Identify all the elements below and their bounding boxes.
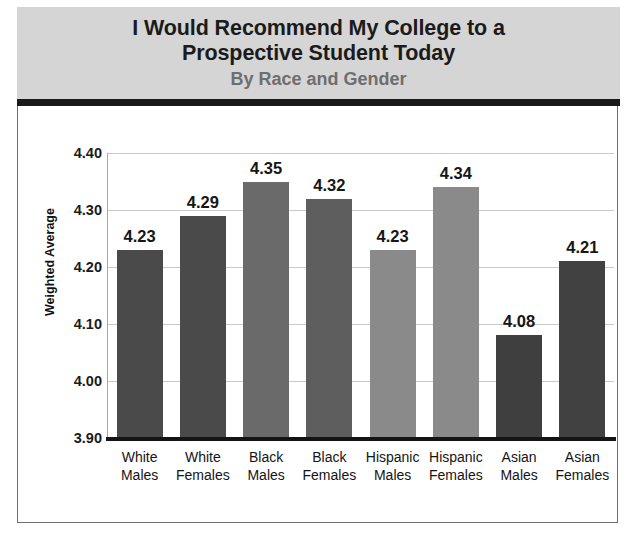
y-axis-tick-label: 4.40 bbox=[40, 145, 102, 161]
x-axis-tick-label-line: Females bbox=[294, 466, 365, 484]
y-axis-tick-label: 4.00 bbox=[40, 373, 102, 389]
x-axis-tick-label-line: Females bbox=[167, 466, 238, 484]
chart-subtitle: By Race and Gender bbox=[17, 66, 620, 90]
bar-rect bbox=[243, 182, 289, 439]
gridline bbox=[108, 153, 614, 154]
x-axis-tick-label: WhiteMales bbox=[104, 448, 175, 484]
x-axis-tick-label-line: Hispanic bbox=[420, 448, 491, 466]
chart-header-band: I Would Recommend My College to a Prospe… bbox=[17, 7, 620, 99]
y-axis-tick-labels: 4.404.304.204.104.003.90 bbox=[36, 0, 102, 542]
x-axis-tick-label: AsianMales bbox=[484, 448, 555, 484]
x-axis-line bbox=[106, 437, 616, 441]
bar[interactable]: 4.34 bbox=[433, 187, 479, 438]
bar-value-label: 4.23 bbox=[377, 227, 409, 246]
bar-value-label: 4.21 bbox=[566, 238, 598, 257]
header-divider-rule bbox=[17, 99, 620, 106]
x-axis-tick-label-line: Males bbox=[484, 466, 555, 484]
x-axis-tick-label-line: Asian bbox=[484, 448, 555, 466]
x-axis-tick-label-line: Females bbox=[547, 466, 618, 484]
bar[interactable]: 4.21 bbox=[559, 261, 605, 438]
bar[interactable]: 4.23 bbox=[117, 250, 163, 438]
bar[interactable]: 4.29 bbox=[180, 216, 226, 438]
bar-rect bbox=[496, 335, 542, 438]
bar[interactable]: 4.35 bbox=[243, 182, 289, 439]
x-axis-tick-label: WhiteFemales bbox=[167, 448, 238, 484]
bar[interactable]: 4.23 bbox=[370, 250, 416, 438]
y-axis-tick-label: 4.10 bbox=[40, 316, 102, 332]
bar[interactable]: 4.08 bbox=[496, 335, 542, 438]
bar-rect bbox=[180, 216, 226, 438]
x-axis-tick-label-line: Hispanic bbox=[357, 448, 428, 466]
chart-title-line-1: I Would Recommend My College to a bbox=[17, 16, 620, 41]
x-axis-tick-label: BlackMales bbox=[231, 448, 302, 484]
x-axis-tick-label-line: Black bbox=[294, 448, 365, 466]
y-axis-tick-label: 4.20 bbox=[40, 259, 102, 275]
x-axis-tick-label-line: Males bbox=[231, 466, 302, 484]
x-axis-tick-label-line: Males bbox=[104, 466, 175, 484]
x-axis-tick-label: AsianFemales bbox=[547, 448, 618, 484]
x-axis-tick-label-line: Males bbox=[357, 466, 428, 484]
bar-rect bbox=[559, 261, 605, 438]
chart-title: I Would Recommend My College to a Prospe… bbox=[17, 7, 620, 66]
x-axis-tick-label-line: Black bbox=[231, 448, 302, 466]
y-axis-line bbox=[107, 153, 108, 438]
x-axis-tick-label-line: Females bbox=[420, 466, 491, 484]
y-axis-tick-label: 4.30 bbox=[40, 202, 102, 218]
gridline bbox=[108, 210, 614, 211]
bar-rect bbox=[433, 187, 479, 438]
bar-value-label: 4.23 bbox=[124, 227, 156, 246]
x-axis-tick-label-line: White bbox=[167, 448, 238, 466]
bar-rect bbox=[117, 250, 163, 438]
bar[interactable]: 4.32 bbox=[306, 199, 352, 438]
y-axis-tick-label: 3.90 bbox=[40, 430, 102, 446]
chart-title-line-2: Prospective Student Today bbox=[17, 41, 620, 66]
x-axis-tick-label: HispanicFemales bbox=[420, 448, 491, 484]
bar-rect bbox=[306, 199, 352, 438]
bar-value-label: 4.35 bbox=[250, 159, 282, 178]
x-axis-tick-label: HispanicMales bbox=[357, 448, 428, 484]
x-axis-tick-label-line: White bbox=[104, 448, 175, 466]
bar-rect bbox=[370, 250, 416, 438]
x-axis-tick-label-line: Asian bbox=[547, 448, 618, 466]
bar-value-label: 4.32 bbox=[313, 176, 345, 195]
bar-value-label: 4.08 bbox=[503, 312, 535, 331]
x-axis-tick-label: BlackFemales bbox=[294, 448, 365, 484]
plot-area: 4.234.294.354.324.234.344.084.21 bbox=[108, 153, 614, 438]
bar-value-label: 4.29 bbox=[187, 193, 219, 212]
bar-value-label: 4.34 bbox=[440, 164, 472, 183]
chart-figure: I Would Recommend My College to a Prospe… bbox=[0, 0, 636, 542]
